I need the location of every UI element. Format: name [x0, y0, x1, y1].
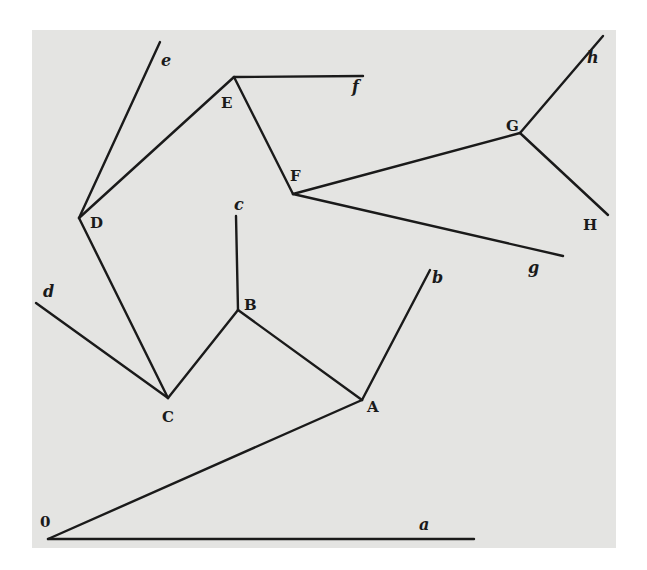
- endpoint-label-h: h: [587, 48, 599, 67]
- edge-A-b: [362, 270, 430, 400]
- vector-diagram: 0ABCDEFGHabcdefgh: [0, 0, 647, 570]
- edge-O-A: [48, 400, 362, 539]
- vertex-label-B: B: [244, 296, 257, 314]
- edge-E-f: [234, 76, 363, 77]
- vertex-label-H: H: [583, 216, 597, 234]
- endpoint-label-e: e: [161, 51, 171, 70]
- edge-E-F: [234, 77, 293, 194]
- edge-F-G: [293, 133, 520, 194]
- edge-C-D: [79, 218, 168, 398]
- vertex-label-F: F: [290, 167, 301, 185]
- endpoint-label-d: d: [43, 282, 54, 301]
- vertex-label-D: D: [90, 214, 103, 232]
- edge-B-c: [236, 216, 238, 310]
- endpoint-label-b: b: [432, 268, 443, 287]
- vertex-label-C: C: [162, 408, 174, 426]
- edge-A-B: [238, 310, 362, 400]
- vertex-label-A: A: [366, 398, 379, 416]
- endpoint-label-c: c: [234, 195, 244, 214]
- edge-D-E: [79, 77, 234, 218]
- edges-group: [36, 36, 608, 539]
- endpoint-label-f: f: [351, 77, 362, 96]
- vertex-label-O: 0: [40, 513, 50, 531]
- vertex-label-E: E: [221, 94, 232, 112]
- edge-F-g: [293, 194, 563, 256]
- vertex-label-G: G: [506, 117, 519, 135]
- edge-B-C: [168, 310, 238, 398]
- endpoint-label-a: a: [419, 515, 429, 534]
- edge-G-H: [520, 133, 608, 215]
- edge-D-e: [79, 42, 160, 218]
- edge-C-d: [36, 303, 168, 398]
- endpoint-label-g: g: [528, 258, 539, 277]
